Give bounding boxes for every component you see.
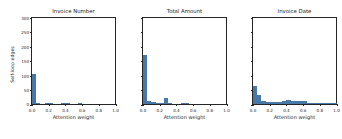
x-axis-label: Attention weight [252, 114, 337, 120]
x-axis-tick [286, 104, 287, 106]
figure-histograms: Self-loop edges Invoice Number0.00.20.40… [0, 0, 342, 139]
y-axis-tick [251, 47, 253, 48]
y-axis-tick [251, 61, 253, 62]
x-axis-tick [270, 104, 271, 106]
subplot-3: Invoice Date0.00.20.40.60.81.0Attention … [0, 0, 342, 139]
y-axis-tick [251, 32, 253, 33]
x-axis-tick-label: 0.8 [312, 108, 328, 113]
y-axis-tick [251, 76, 253, 77]
x-axis-tick-label: 0.6 [295, 108, 311, 113]
x-axis-tick [320, 104, 321, 106]
x-axis-tick [337, 104, 338, 106]
x-axis-tick-label: 0.0 [245, 108, 261, 113]
y-axis-tick [251, 90, 253, 91]
x-axis-tick-label: 0.4 [278, 108, 294, 113]
plot-axes: 0.00.20.40.60.81.0 [252, 17, 337, 105]
subplot-title: Invoice Date [252, 8, 337, 14]
x-axis-tick [303, 104, 304, 106]
y-axis-tick [251, 105, 253, 106]
x-axis-tick-label: 1.0 [329, 108, 342, 113]
x-axis-tick-label: 0.2 [262, 108, 278, 113]
x-axis-tick [253, 104, 254, 106]
histogram-bars [253, 18, 336, 104]
y-axis-tick [251, 18, 253, 19]
